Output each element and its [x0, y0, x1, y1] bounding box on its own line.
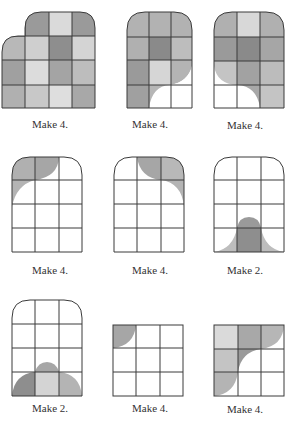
figure-label: Make 2. — [197, 264, 293, 276]
figure-label: Make 4. — [100, 402, 200, 414]
figure-5: Make 4. — [100, 145, 200, 285]
figure-8: Make 4. — [100, 290, 200, 422]
figure-7: Make 2. — [0, 290, 100, 422]
figure-6: Make 2. — [197, 145, 293, 285]
figure-label: Make 4. — [0, 264, 100, 276]
figure-label: Make 4. — [100, 264, 200, 276]
figure-label: Make 4. — [197, 119, 293, 131]
figure-label: Make 2. — [0, 402, 100, 414]
figure-2: Make 4. — [100, 0, 200, 140]
figure-3: Make 4. — [197, 0, 293, 140]
figure-9: Make 4. — [197, 290, 293, 422]
figure-label: Make 4. — [197, 403, 293, 415]
figure-label: Make 4. — [0, 118, 100, 130]
figure-4: Make 4. — [0, 145, 100, 285]
figure-label: Make 4. — [100, 118, 200, 130]
figure-1: Make 4. — [0, 0, 100, 140]
